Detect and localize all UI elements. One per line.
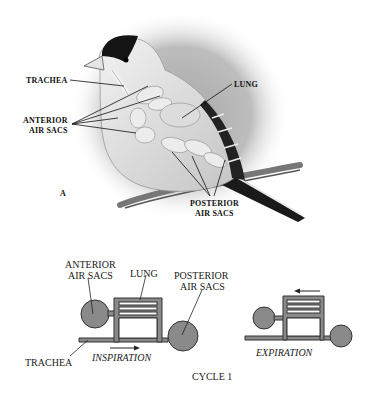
bird-eye (124, 58, 129, 63)
e-parabronchus-3 (287, 310, 320, 313)
schematic-parabronchus-2 (119, 307, 157, 310)
s-label-anterior-line2: AIR SACS (68, 270, 113, 281)
panel-letter: A (60, 189, 66, 198)
s-label-lung: LUNG (130, 268, 158, 279)
schematic-parabronchus-1 (119, 302, 157, 305)
e-anterior-sac (253, 307, 275, 329)
label-trachea: TRACHEA (26, 76, 67, 85)
label-anterior-line2: AIR SACS (29, 126, 68, 135)
s-label-posterior-line2: AIR SACS (180, 281, 225, 292)
schematic-inspiration (79, 298, 198, 351)
bird-respiration-diagram: TRACHEA LUNG ANTERIOR AIR SACS POSTERIOR… (0, 0, 370, 396)
expiration-arrow (294, 289, 320, 294)
schematic-expiration (245, 296, 352, 347)
label-posterior-line2: AIR SACS (195, 209, 234, 218)
schematic-trachea-tube (79, 338, 168, 342)
s-label-posterior-line1: POSTERIOR (174, 270, 229, 281)
e-parabronchus-1 (287, 300, 320, 303)
e-lung-lower-chamber (287, 318, 320, 336)
arrowhead-left-icon (294, 289, 300, 294)
e-posterior-sac (330, 325, 352, 347)
inspiration-arrow (110, 346, 140, 351)
caption-cycle: CYCLE 1 (192, 371, 232, 382)
arrowhead-right-icon (134, 346, 140, 351)
schematic-lung-lower-chamber (119, 318, 157, 338)
s-label-inspiration: INSPIRATION (91, 352, 152, 363)
label-posterior-line1: POSTERIOR (190, 199, 239, 208)
schematic-anterior-sac (81, 300, 109, 328)
s-label-trachea: TRACHEA (25, 357, 73, 368)
label-lung: LUNG (234, 80, 258, 89)
schematic-parabronchus-3 (119, 312, 157, 315)
label-anterior-line1: ANTERIOR (23, 116, 68, 125)
s-label-expiration: EXPIRATION (255, 347, 314, 358)
schematic-posterior-sac (168, 321, 198, 351)
panel-a-bird: TRACHEA LUNG ANTERIOR AIR SACS POSTERIOR… (23, 10, 305, 222)
s-label-anterior-line1: ANTERIOR (65, 259, 116, 270)
e-parabronchus-2 (287, 305, 320, 308)
